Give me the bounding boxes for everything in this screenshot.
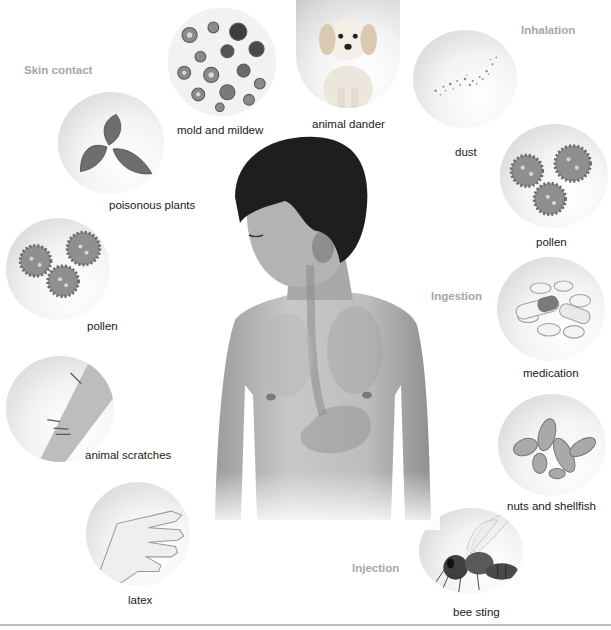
route-skin-contact-heading: Skin contact (24, 64, 92, 76)
pollen-skin-image (6, 218, 110, 320)
pollen-grains-icon (500, 124, 608, 228)
pollen-skin-label: pollen (87, 320, 118, 332)
route-injection-heading: Injection (352, 562, 399, 574)
nuts-shellfish-label: nuts and shellfish (507, 500, 596, 512)
nuts-shellfish-image (498, 394, 606, 496)
poisonous-plants-label: poisonous plants (109, 199, 195, 211)
mold-mildew-image (168, 8, 276, 116)
latex-image (86, 482, 190, 586)
allergen-exposure-diagram: Skin contact Inhalation Ingestion Inject… (0, 0, 611, 630)
pollen-inhaled-label: pollen (536, 236, 567, 248)
animal-dander-image (296, 0, 400, 108)
bottom-divider (0, 624, 611, 626)
latex-label: latex (128, 594, 152, 606)
mold-spores-icon (168, 8, 276, 116)
pollen-inhaled-image (500, 124, 608, 228)
route-inhalation-heading: Inhalation (521, 24, 575, 36)
dust-particles-icon (413, 30, 517, 128)
puppy-icon (296, 0, 400, 108)
gloved-hand-icon (86, 482, 190, 586)
medication-image (497, 257, 605, 361)
nuts-icon (498, 394, 606, 496)
scratched-arm-icon (6, 356, 114, 462)
animal-scratches-image (6, 356, 114, 462)
poisonous-plants-image (58, 92, 164, 194)
dust-image (413, 30, 517, 128)
pills-capsules-icon (497, 257, 605, 361)
pollen-grains-icon (6, 218, 110, 320)
child-torso-icon (205, 135, 440, 530)
animal-dander-label: animal dander (312, 118, 385, 130)
animal-scratches-label: animal scratches (85, 449, 171, 461)
medication-label: medication (523, 367, 579, 379)
bee-sting-label: bee sting (453, 606, 500, 618)
dust-label: dust (455, 146, 477, 158)
child-figure-illustration (205, 135, 440, 530)
poison-ivy-leaves-icon (58, 92, 164, 194)
